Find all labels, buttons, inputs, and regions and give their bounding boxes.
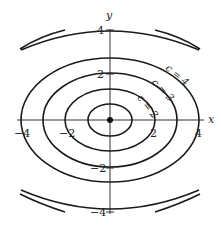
origin-point: [107, 117, 113, 123]
contour-diagram: y x −4 −2 2 4 4 2 −2 −4 c = 2 c = 3 c = …: [0, 0, 221, 230]
x-tick-label-2: 2: [150, 127, 157, 140]
level-label-c2: c = 2: [135, 92, 160, 120]
x-tick-label-neg4: −4: [14, 127, 30, 140]
level-curve-6-top-left: [20, 30, 65, 49]
y-tick-label-neg2: −2: [90, 162, 106, 175]
level-label-c3: c = 3: [150, 77, 177, 104]
x-axis-label: x: [208, 113, 215, 126]
level-curve-6-top-right: [155, 30, 200, 49]
y-axis-label: y: [105, 9, 113, 22]
x-tick-label-neg2: −2: [59, 127, 75, 140]
y-tick-label-4: 4: [97, 24, 104, 37]
x-tick-label-4: 4: [195, 127, 202, 140]
y-tick-label-neg4: −4: [90, 206, 106, 219]
level-label-c4: c = 4: [164, 62, 192, 88]
y-tick-label-2: 2: [97, 68, 104, 81]
